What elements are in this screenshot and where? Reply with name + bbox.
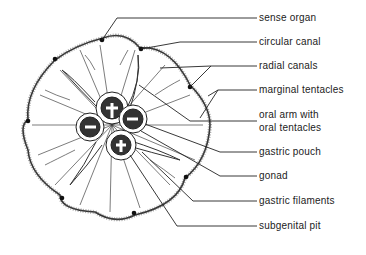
- label-subgenital-pit: subgenital pit: [259, 220, 321, 232]
- label-sense-organ: sense organ: [259, 12, 316, 24]
- label-radial-canals: radial canals: [259, 60, 318, 72]
- label-marginal-tentacles: marginal tentacles: [259, 84, 344, 96]
- radial-canals: [32, 45, 203, 212]
- label-gastric-filaments: gastric filaments: [259, 195, 335, 207]
- label-gonad: gonad: [259, 170, 288, 182]
- label-oral-arm-line1: oral arm with: [259, 109, 319, 121]
- label-gastric-pouch: gastric pouch: [259, 146, 321, 158]
- label-oral-arm-line2: oral tentacles: [259, 122, 321, 134]
- bell-outline: [23, 36, 210, 220]
- label-circular-canal: circular canal: [259, 36, 321, 48]
